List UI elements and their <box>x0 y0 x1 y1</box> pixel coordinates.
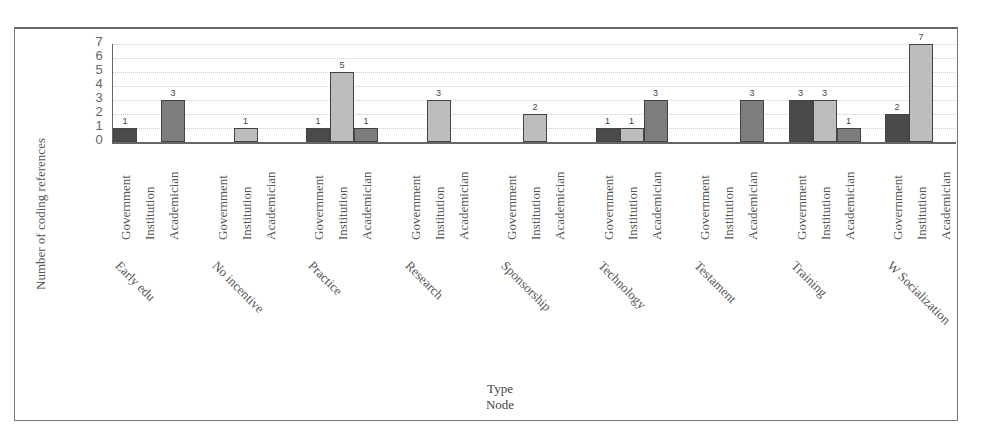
y-tick-label: 0 <box>92 135 106 145</box>
x-subcategory-label: Government <box>408 175 424 240</box>
bar-value-label: 3 <box>161 88 185 98</box>
bar-institution <box>813 100 837 142</box>
x-subcategory-label: Institution <box>818 187 834 240</box>
bar-value-label: 1 <box>837 116 861 126</box>
bar-institution <box>234 128 258 142</box>
bar-government <box>789 100 813 142</box>
x-subcategory-label: Government <box>601 175 617 240</box>
y-tick-label: 1 <box>92 121 106 131</box>
x-subcategory-label: Academician <box>649 171 665 240</box>
x-subcategory-label: Institution <box>528 187 544 240</box>
y-tick-label: 6 <box>92 51 106 61</box>
y-tick-label: 4 <box>92 79 106 89</box>
x-subcategory-label: Academician <box>263 171 279 240</box>
bar-academician <box>837 128 861 142</box>
bar-value-label: 3 <box>813 88 837 98</box>
bar-value-label: 1 <box>596 116 620 126</box>
x-subcategory-label: Government <box>118 175 134 240</box>
bar-value-label: 1 <box>306 116 330 126</box>
x-subcategory-label: Academician <box>842 171 858 240</box>
bar-value-label: 1 <box>354 116 378 126</box>
x-subcategory-label: Government <box>215 175 231 240</box>
x-subcategory-label: Academician <box>552 171 568 240</box>
x-subcategory-label: Academician <box>359 171 375 240</box>
bar-academician <box>161 100 185 142</box>
gridline <box>113 58 956 59</box>
x-subcategory-label: Institution <box>721 187 737 240</box>
x-subcategory-label: Institution <box>239 187 255 240</box>
y-tick-label: 5 <box>92 65 106 75</box>
bar-value-label: 3 <box>789 88 813 98</box>
bar-institution <box>909 44 933 142</box>
bar-value-label: 1 <box>113 116 137 126</box>
x-subcategory-label: Academician <box>456 171 472 240</box>
x-subcategory-label: Academician <box>938 171 954 240</box>
x-axis-title-line1: Type <box>470 381 530 397</box>
bar-academician <box>354 128 378 142</box>
gridline <box>113 72 956 73</box>
bar-institution <box>523 114 547 142</box>
bar-government <box>885 114 909 142</box>
bar-value-label: 3 <box>427 88 451 98</box>
x-subcategory-label: Academician <box>745 171 761 240</box>
bar-value-label: 2 <box>885 102 909 112</box>
bar-institution <box>330 72 354 142</box>
bar-government <box>596 128 620 142</box>
y-tick-label: 3 <box>92 93 106 103</box>
x-axis-title-line2: Node <box>470 397 530 413</box>
bar-academician <box>644 100 668 142</box>
bar-value-label: 7 <box>909 32 933 42</box>
bar-academician <box>740 100 764 142</box>
bar-government <box>306 128 330 142</box>
x-subcategory-label: Academician <box>166 171 182 240</box>
bar-government <box>113 128 137 142</box>
y-tick-label: 7 <box>92 37 106 47</box>
x-subcategory-label: Institution <box>432 187 448 240</box>
x-subcategory-label: Government <box>794 175 810 240</box>
bar-value-label: 3 <box>740 88 764 98</box>
x-subcategory-label: Government <box>697 175 713 240</box>
x-subcategory-label: Institution <box>335 187 351 240</box>
x-subcategory-label: Institution <box>914 187 930 240</box>
bar-value-label: 1 <box>620 116 644 126</box>
gridline <box>113 44 956 45</box>
gridline <box>113 86 956 87</box>
bar-value-label: 2 <box>523 102 547 112</box>
y-axis-label: Number of coding references <box>33 138 49 290</box>
x-subcategory-label: Government <box>311 175 327 240</box>
bar-value-label: 5 <box>330 60 354 70</box>
y-tick-label: 2 <box>92 107 106 117</box>
x-subcategory-label: Institution <box>625 187 641 240</box>
x-subcategory-label: Government <box>890 175 906 240</box>
bar-institution <box>427 100 451 142</box>
x-subcategory-label: Institution <box>142 187 158 240</box>
bar-value-label: 1 <box>234 116 258 126</box>
x-axis-line <box>112 142 956 144</box>
bar-institution <box>620 128 644 142</box>
bar-value-label: 3 <box>644 88 668 98</box>
x-subcategory-label: Government <box>504 175 520 240</box>
